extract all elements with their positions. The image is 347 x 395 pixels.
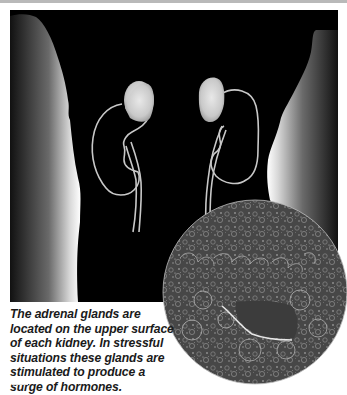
tissue-micrograph: [163, 200, 347, 384]
figure-caption: The adrenal glands are located on the up…: [10, 307, 175, 395]
footer-mark: [12, 384, 28, 385]
